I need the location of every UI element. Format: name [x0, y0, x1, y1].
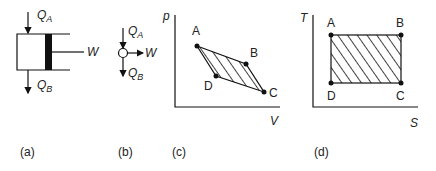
panel-d-ts-diagram: T S A B C D (d): [300, 11, 418, 159]
axis-label-p: p: [162, 9, 170, 23]
work-label: W: [87, 45, 100, 59]
panel-c-pv-diagram: p V A B C D (c): [162, 9, 280, 159]
caption-a: (a): [20, 145, 35, 159]
point-c: [399, 81, 404, 86]
point-label-c: C: [396, 89, 405, 103]
point-c: [262, 90, 267, 95]
axis-label-v: V: [270, 114, 279, 128]
axis-label-s: S: [410, 116, 418, 130]
point-a: [329, 33, 334, 38]
point-label-c: C: [269, 86, 278, 100]
heat-in-label: QA: [128, 24, 143, 40]
point-label-d: D: [204, 79, 213, 93]
point-label-d: D: [327, 89, 336, 103]
piston-head: [45, 34, 52, 70]
panel-a-piston: QA W QB (a): [17, 8, 100, 159]
point-d: [214, 74, 219, 79]
heat-out-label: QB: [37, 78, 52, 94]
panel-b-engine: QA W QB (b): [118, 24, 158, 159]
caption-b: (b): [118, 145, 133, 159]
point-label-b: B: [250, 46, 258, 60]
point-d: [329, 81, 334, 86]
point-label-b: B: [396, 16, 404, 30]
work-label: W: [145, 46, 158, 60]
point-b: [399, 33, 404, 38]
point-label-a: A: [192, 24, 200, 38]
engine-circle-icon: [119, 49, 128, 58]
carnot-cycle-figure: QA W QB (a) QA W QB (b) p V A B C D (c): [0, 0, 436, 171]
axis-label-t: T: [300, 11, 309, 25]
heat-in-label: QA: [37, 8, 52, 24]
caption-d: (d): [314, 145, 329, 159]
heat-out-label: QB: [128, 66, 143, 82]
point-a: [195, 44, 200, 49]
point-b: [244, 62, 249, 67]
point-label-a: A: [327, 16, 335, 30]
cycle-area-hatch: [331, 35, 401, 83]
caption-c: (c): [172, 145, 186, 159]
